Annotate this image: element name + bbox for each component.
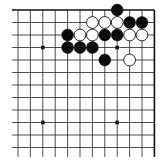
black-stone [124,17,136,29]
black-stone [111,4,123,16]
black-stone [111,29,123,41]
star-point-icon [41,121,45,125]
white-stone [111,17,123,29]
star-point-icon [115,121,119,125]
black-stone [87,42,99,54]
star-point-icon [41,46,45,50]
black-stone [136,17,148,29]
white-stone [87,29,99,41]
star-point-icon [115,46,119,50]
black-stone [99,29,111,41]
white-stone [124,29,136,41]
black-stone [74,42,86,54]
white-stone [136,29,148,41]
go-board [0,0,162,163]
white-stone [87,17,99,29]
white-stone [124,54,136,66]
black-stone [62,42,74,54]
black-stone [62,29,74,41]
white-stone [99,17,111,29]
black-stone [99,54,111,66]
white-stone [74,29,86,41]
